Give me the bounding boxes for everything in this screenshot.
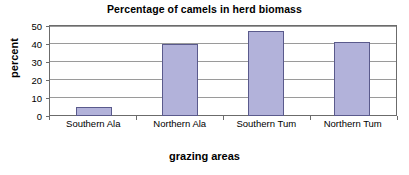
y-tick-label-0: 0 bbox=[0, 111, 42, 122]
y-tick-mark-50 bbox=[46, 26, 50, 27]
bar-chart-figure: Percentage of camels in herd biomass per… bbox=[0, 0, 409, 175]
bar-series bbox=[51, 26, 395, 116]
bar-slot bbox=[137, 26, 223, 116]
y-tick-label-40: 40 bbox=[0, 39, 42, 50]
x-axis-category-labels: Southern AlaNorthern AlaSouthern TumNort… bbox=[50, 119, 396, 130]
x-category-label: Southern Ala bbox=[50, 119, 137, 130]
y-tick-mark-10 bbox=[46, 98, 50, 99]
y-tick-label-20: 20 bbox=[0, 75, 42, 86]
y-tick-label-50: 50 bbox=[0, 21, 42, 32]
y-tick-label-10: 10 bbox=[0, 93, 42, 104]
bar-slot bbox=[51, 26, 137, 116]
x-tick-mark-4 bbox=[397, 116, 398, 120]
plot-area: 01020304050 bbox=[49, 25, 397, 116]
bar bbox=[248, 31, 284, 116]
y-tick-mark-30 bbox=[46, 62, 50, 63]
y-tick-mark-40 bbox=[46, 44, 50, 45]
bar-slot bbox=[309, 26, 395, 116]
bar bbox=[162, 44, 198, 116]
y-tick-mark-20 bbox=[46, 80, 50, 81]
x-category-label: Southern Tum bbox=[223, 119, 310, 130]
y-tick-label-30: 30 bbox=[0, 57, 42, 68]
bar bbox=[334, 42, 370, 116]
x-axis-title: grazing areas bbox=[0, 150, 409, 162]
bar bbox=[76, 107, 112, 116]
chart-title: Percentage of camels in herd biomass bbox=[0, 3, 409, 15]
x-category-label: Northern Ala bbox=[137, 119, 224, 130]
x-category-label: Northern Tum bbox=[310, 119, 397, 130]
bar-slot bbox=[223, 26, 309, 116]
